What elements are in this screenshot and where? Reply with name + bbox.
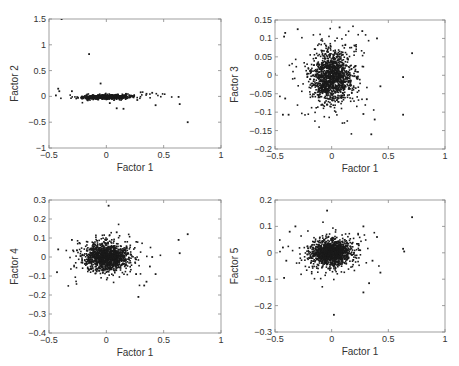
outlier-point [366,98,368,100]
subplot-factor1-vs-factor5: −0.500.51−0.3−0.2−0.100.10.2Factor 1Fact… [229,195,448,357]
outlier-point [339,27,341,29]
y-tick-label: −1 [36,143,46,153]
x-tick-label: 0.5 [157,150,170,160]
y-tick-label: −0.1 [28,271,46,281]
subplot-factor1-vs-factor4: −0.500.51−0.4−0.3−0.2−0.100.10.20.3Facto… [9,195,224,358]
outlier-point [88,53,90,55]
outlier-point [187,233,189,235]
subplot-factor1-vs-factor2: −0.500.51−1−0.500.511.5Factor 1Factor 2 [9,14,224,173]
outlier-point [333,314,335,316]
outlier-point [288,114,290,116]
x-axis-label: Factor 1 [117,162,154,173]
outlier-point [283,277,285,279]
outlier-point [56,271,58,273]
y-tick-label: −0.05 [249,89,272,99]
outlier-point [368,282,370,284]
outlier-point [282,114,284,116]
axes-frame [275,20,445,149]
outlier-point [151,92,153,94]
outlier-point [370,133,372,135]
x-axis-label: Factor 1 [342,346,379,357]
outlier-point [295,226,297,228]
outlier-point [109,102,111,104]
outlier-point [187,121,189,123]
outlier-point [283,36,285,38]
outlier-point [143,285,145,287]
outlier-point [402,76,404,78]
x-tick-label: 0.5 [382,151,395,161]
y-tick-label: 0 [41,252,46,262]
outlier-point [123,108,125,110]
y-tick-label: 1 [41,40,46,50]
outlier-point [411,52,413,54]
y-tick-label: 0 [267,70,272,80]
y-tick-label: −0.1 [254,107,272,117]
outlier-point [100,83,102,85]
y-tick-label: −0.2 [28,290,46,300]
outlier-point [282,247,284,249]
outlier-point [374,119,376,121]
axes-frame [275,200,445,332]
outlier-point [402,248,404,250]
outlier-point [58,90,60,92]
outlier-point [363,226,365,228]
y-tick-label: 0.2 [259,195,272,205]
outlier-point [363,292,365,294]
y-tick-label: 0.3 [33,195,46,205]
scatter-matrix-figure: −0.500.51−1−0.500.511.5Factor 1Factor 2 … [0,0,459,366]
outlier-point [149,266,151,268]
x-tick-label: 0 [329,151,334,161]
outlier-point [146,93,148,95]
outlier-point [284,32,286,34]
outlier-point [179,103,181,105]
outlier-point [155,273,157,275]
axes-frame [49,19,221,148]
outlier-point [138,296,140,298]
outlier-point [135,273,137,275]
x-axis-label: Factor 1 [342,163,379,174]
outlier-point [108,205,110,207]
y-tick-label: −0.5 [28,117,46,127]
outlier-point [140,91,142,93]
y-tick-label: 1.5 [33,14,46,24]
y-tick-label: 0.05 [254,52,272,62]
outlier-point [285,260,287,262]
y-tick-label: −0.3 [254,327,272,337]
subplot-factor1-vs-factor3: −0.500.51−0.2−0.15−0.1−0.0500.050.10.15F… [229,15,448,174]
y-tick-label: 0.2 [33,214,46,224]
y-tick-label: 0.5 [33,66,46,76]
x-tick-label: 0.5 [157,335,170,345]
y-tick-label: −0.4 [28,328,46,338]
x-tick-label: 1 [442,151,447,161]
y-tick-label: 0.1 [33,233,46,243]
outlier-point [136,99,138,101]
outlier-point [297,28,299,30]
outlier-point [57,249,59,251]
y-tick-label: −0.2 [254,301,272,311]
x-tick-label: 1 [218,150,223,160]
y-tick-label: 0 [41,91,46,101]
x-tick-label: 0 [104,335,109,345]
outlier-point [179,252,181,254]
outlier-point [402,114,404,116]
y-axis-label: Factor 2 [9,65,20,102]
outlier-point [289,231,291,233]
y-axis-label: Factor 5 [229,247,240,284]
x-axis-label: Factor 1 [117,347,154,358]
outlier-point [146,281,148,283]
outlier-point [71,90,73,92]
outlier-point [361,30,363,32]
y-axis-label: Factor 4 [9,248,20,285]
y-tick-label: −0.1 [254,274,272,284]
outlier-point [57,88,59,90]
x-tick-label: 0 [329,334,334,344]
outlier-point [61,18,63,20]
y-tick-label: −0.15 [249,126,272,136]
y-tick-label: 0.1 [259,33,272,43]
x-tick-label: 0 [104,150,109,160]
outlier-point [380,85,382,87]
outlier-point [155,104,157,106]
outlier-point [284,98,286,100]
outlier-point [411,216,413,218]
y-axis-label: Factor 3 [229,66,240,103]
